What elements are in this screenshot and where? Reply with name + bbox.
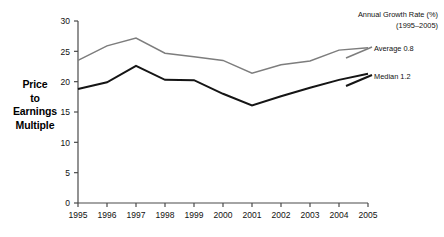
x-axis-tick-label: 1998: [156, 210, 175, 220]
y-axis-title-line-4: Multiple: [6, 119, 64, 133]
legend-title-line-1: Annual Growth Rate (%): [358, 10, 438, 19]
y-axis-tick-label: 10: [61, 138, 71, 148]
series-line-average: [78, 38, 368, 73]
x-axis-tick-label: 1999: [185, 210, 204, 220]
chart-container: Price to Earnings Multiple 051015202530 …: [0, 0, 444, 237]
x-axis-tick-label: 2002: [272, 210, 291, 220]
legend-label-average: Average 0.8: [374, 44, 414, 53]
x-axis-ticks: 1995199619971998199920002001200220032004…: [69, 203, 378, 220]
x-axis-tick-label: 2001: [243, 210, 262, 220]
y-axis-title: Price to Earnings Multiple: [6, 78, 64, 132]
x-axis-tick-label: 1996: [98, 210, 117, 220]
x-axis-tick-label: 2000: [214, 210, 233, 220]
y-axis-tick-label: 30: [61, 16, 71, 26]
x-axis-tick-label: 2003: [301, 210, 320, 220]
legend-label-median: Median 1.2: [374, 72, 411, 81]
x-axis: 1995199619971998199920002001200220032004…: [69, 203, 378, 220]
x-axis-tick-label: 1995: [69, 210, 88, 220]
x-axis-tick-label: 1997: [127, 210, 146, 220]
x-axis-tick-label: 2005: [359, 210, 378, 220]
y-axis-tick-label: 0: [65, 198, 70, 208]
series-line-median: [78, 66, 368, 105]
data-series-group: [78, 38, 368, 105]
y-axis-tick-label: 5: [65, 168, 70, 178]
line-chart-plot: 051015202530 199519961997199819992000200…: [0, 0, 444, 237]
legend-title-line-2: (1995–2005): [396, 21, 438, 30]
y-axis-tick-label: 25: [61, 47, 71, 57]
y-axis-title-line-1: Price: [6, 78, 64, 92]
y-axis-title-line-2: to: [6, 92, 64, 106]
x-axis-tick-label: 2004: [330, 210, 349, 220]
y-axis-title-line-3: Earnings: [6, 105, 64, 119]
